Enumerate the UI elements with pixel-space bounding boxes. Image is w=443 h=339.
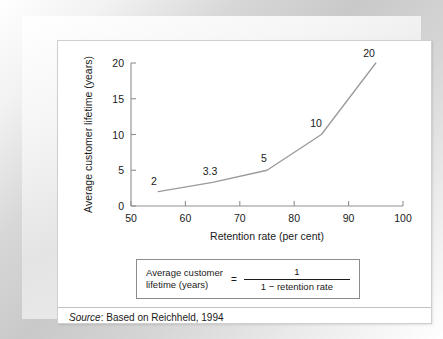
x-tick-label: 70 xyxy=(234,212,246,224)
y-tick-label: 15 xyxy=(112,93,124,105)
figure-page: 0 5 10 15 20 50 60 70 80 90 100 Retentio… xyxy=(0,0,443,339)
equals-sign: = xyxy=(231,274,237,285)
data-point-label: 20 xyxy=(363,47,375,59)
data-point-label: 5 xyxy=(261,152,267,164)
y-tick-label: 20 xyxy=(112,57,124,69)
source-label: Source xyxy=(69,312,101,323)
line-chart: 0 5 10 15 20 50 60 70 80 90 100 Retentio… xyxy=(58,41,431,251)
chart-svg: 0 5 10 15 20 50 60 70 80 90 100 Retentio… xyxy=(58,41,431,251)
x-tick-label: 50 xyxy=(125,212,137,224)
x-tick-label: 90 xyxy=(343,212,355,224)
y-tick-label: 5 xyxy=(118,164,124,176)
y-tick-label: 10 xyxy=(112,129,124,141)
y-tick-label: 0 xyxy=(118,200,124,212)
source-text: : Based on Reichheld, 1994 xyxy=(101,312,224,323)
formula-box: Average customer lifetime (years) = 1 1 … xyxy=(136,259,360,299)
formula-lhs-line1: Average customer xyxy=(146,267,223,280)
fraction-bar xyxy=(244,279,350,280)
y-axis-title: Average customer lifetime (years) xyxy=(82,56,94,213)
data-line-series-0 xyxy=(158,63,376,192)
data-point-label: 10 xyxy=(310,117,322,129)
formula-fraction: 1 1 − retention rate xyxy=(244,266,350,293)
figure-card: 0 5 10 15 20 50 60 70 80 90 100 Retentio… xyxy=(57,40,432,324)
fraction-numerator: 1 xyxy=(294,266,299,278)
source-divider xyxy=(58,307,431,308)
x-tick-label: 100 xyxy=(394,212,412,224)
y-axis-ticks xyxy=(131,63,136,206)
x-tick-label: 80 xyxy=(288,212,300,224)
formula-left-side: Average customer lifetime (years) xyxy=(146,267,223,292)
x-tick-label: 60 xyxy=(180,212,192,224)
formula-lhs-line2: lifetime (years) xyxy=(146,279,223,292)
data-point-label: 2 xyxy=(151,175,157,187)
data-point-label: 3.3 xyxy=(203,165,218,177)
fraction-denominator: 1 − retention rate xyxy=(261,281,333,293)
source-line: Source: Based on Reichheld, 1994 xyxy=(69,312,224,323)
x-axis-title: Retention rate (per cent) xyxy=(210,230,324,242)
figure-bevel: 0 5 10 15 20 50 60 70 80 90 100 Retentio… xyxy=(22,16,421,319)
x-axis-ticks xyxy=(131,201,403,206)
